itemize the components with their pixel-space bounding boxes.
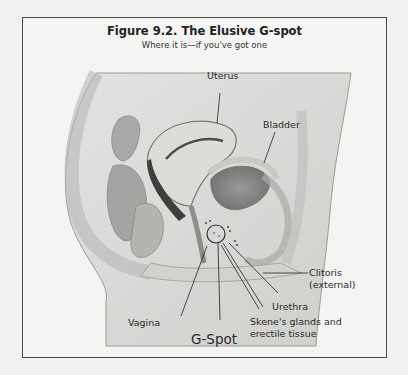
label-gspot: G-Spot xyxy=(191,331,237,347)
label-uterus: Uterus xyxy=(207,70,238,82)
anatomy-illustration xyxy=(23,18,386,357)
label-vagina: Vagina xyxy=(128,317,160,329)
label-bladder: Bladder xyxy=(263,119,300,131)
label-clitoris-line2: (external) xyxy=(309,279,356,291)
label-clitoris: Clitoris (external) xyxy=(309,267,356,291)
label-urethra: Urethra xyxy=(272,301,308,313)
label-skenes-line2: erectile tissue xyxy=(250,328,342,340)
label-clitoris-line1: Clitoris xyxy=(309,267,356,279)
figure-frame: Figure 9.2. The Elusive G-spot Where it … xyxy=(22,17,387,358)
label-skenes-line1: Skene's glands and xyxy=(250,316,342,328)
label-skenes-glands: Skene's glands and erectile tissue xyxy=(250,316,342,340)
